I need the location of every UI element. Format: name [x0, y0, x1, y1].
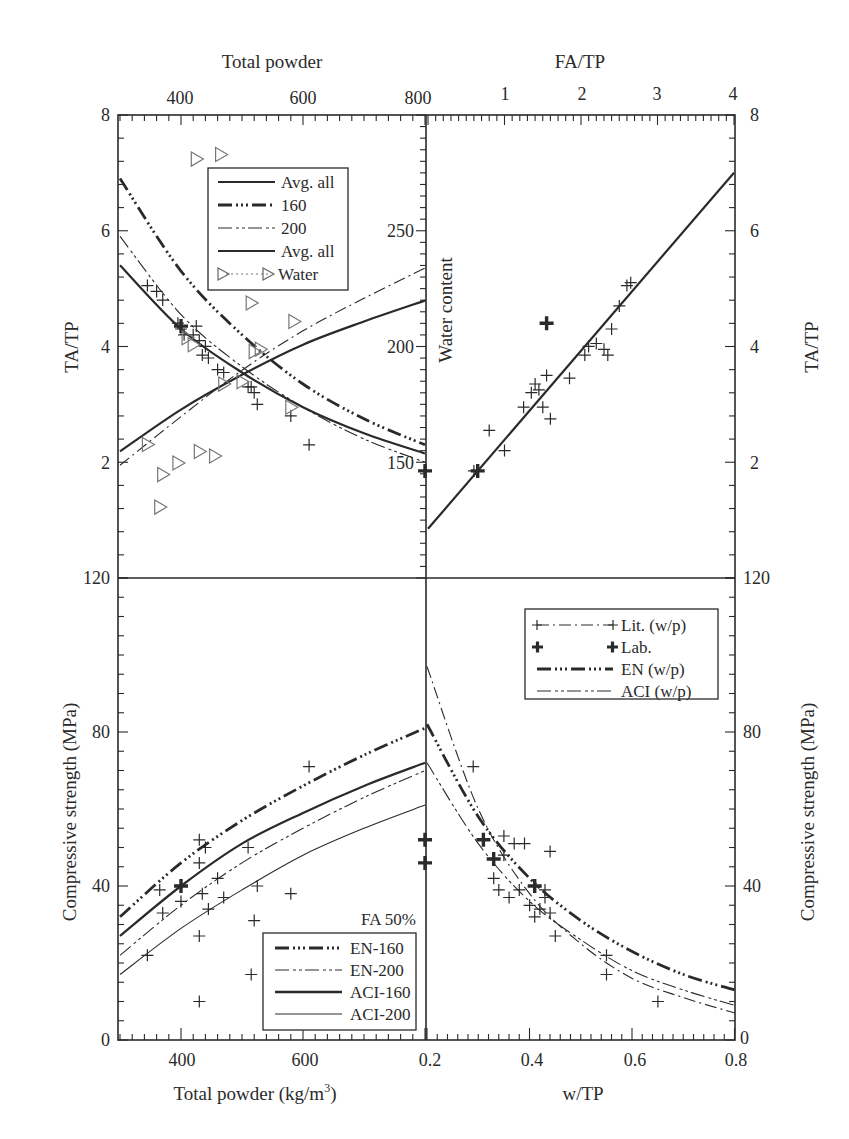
- fa-50-annotation: FA 50%: [361, 910, 416, 929]
- plus-marker: [524, 899, 536, 911]
- legend-label-avg-all-2: Avg. all: [281, 242, 335, 261]
- plus-marker: [175, 895, 187, 907]
- legend-label-aci-wp: ACI (w/p): [621, 682, 691, 701]
- top-right-x-axis-title: FA/TP: [555, 51, 605, 72]
- plus-marker: [151, 285, 163, 297]
- tick-rb-y-120: 120: [743, 568, 770, 588]
- triangle-marker: [216, 147, 228, 161]
- legend-label-water: Water: [278, 265, 318, 284]
- tick-tr-x-3: 3: [653, 84, 662, 104]
- plus-marker: [193, 834, 205, 846]
- left-bottom-y-axis-title: Compressive strength (MPa): [59, 703, 81, 921]
- plus-marker: [251, 398, 263, 410]
- plus-marker: [549, 930, 561, 942]
- plus-marker: [513, 884, 525, 896]
- tick-rt-y-6: 6: [750, 221, 759, 241]
- chart-svg: Total powder FA/TP 400 600 800 1 2 3 4 8…: [0, 0, 849, 1139]
- legend-label-lab: Lab.: [621, 638, 652, 657]
- legend-label-160: 160: [281, 196, 307, 215]
- legend-label-en-200: EN-200: [350, 961, 404, 980]
- plus-marker: [248, 915, 260, 927]
- tick-tl-x-400: 400: [167, 88, 194, 108]
- plus-marker: [508, 838, 520, 850]
- legend-label-en-160: EN-160: [350, 939, 404, 958]
- plus-marker: [193, 857, 205, 869]
- right-top-y-axis-title: TA/TP: [801, 321, 822, 372]
- bold-plus-marker: [174, 319, 188, 333]
- plus-marker: [196, 888, 208, 900]
- plus-marker: [190, 320, 202, 332]
- legend-label-aci-160: ACI-160: [350, 983, 410, 1002]
- plus-marker: [529, 911, 541, 923]
- plus-marker: [141, 949, 153, 961]
- tick-tr-x-1: 1: [501, 84, 510, 104]
- plus-marker: [199, 842, 211, 854]
- tick-inner-y-200: 200: [387, 337, 414, 357]
- triangle-marker: [246, 296, 258, 310]
- plus-marker: [212, 364, 224, 376]
- bold-plus-marker: [418, 464, 432, 478]
- triangle-marker: [158, 468, 170, 482]
- tick-rt-y-4: 4: [750, 337, 759, 357]
- plus-marker: [212, 872, 224, 884]
- triangle-marker: [210, 449, 222, 463]
- tick-br-x-0.8: 0.8: [725, 1050, 748, 1070]
- plus-marker: [157, 907, 169, 919]
- tick-br-x-0.4: 0.4: [521, 1050, 544, 1070]
- tick-bl-x-600: 600: [292, 1050, 319, 1070]
- bold-plus-marker: [418, 856, 432, 870]
- plus-marker: [493, 884, 505, 896]
- plus-marker: [193, 930, 205, 942]
- plus-marker: [285, 888, 297, 900]
- tick-rt-y-8: 8: [750, 105, 759, 125]
- bold-plus-marker: [487, 852, 501, 866]
- plus-marker: [499, 445, 511, 457]
- legend-label-avg-all: Avg. all: [281, 173, 335, 192]
- plus-marker: [541, 369, 553, 381]
- series-avg-all-water-content-: [120, 301, 425, 452]
- plus-marker: [544, 845, 556, 857]
- tick-tr-x-4: 4: [729, 84, 738, 104]
- triangle-marker: [191, 152, 203, 166]
- tick-lt-y-4: 4: [101, 337, 110, 357]
- plus-marker: [218, 892, 230, 904]
- water-content-axis-title: Water content: [435, 257, 456, 363]
- bottom-right-x-axis-title: w/TP: [562, 1083, 603, 1104]
- tick-lb-y-120: 120: [83, 568, 110, 588]
- tick-lb-y-40: 40: [92, 876, 110, 896]
- plus-marker: [606, 323, 618, 335]
- plus-marker: [303, 439, 315, 451]
- right-bottom-y-axis-title: Compressive strength (MPa): [797, 703, 819, 921]
- tick-rb-y-40: 40: [743, 876, 761, 896]
- tick-inner-y-150: 150: [387, 453, 414, 473]
- triangle-marker: [173, 456, 185, 470]
- series-water-fit-water-content-: [120, 268, 425, 465]
- left-top-y-axis-title: TA/TP: [61, 321, 82, 372]
- plus-marker: [498, 830, 510, 842]
- series-aci-w-p-: [427, 763, 735, 1006]
- tick-tr-x-2: 2: [578, 84, 587, 104]
- plus-marker: [483, 424, 495, 436]
- plus-marker: [245, 969, 257, 981]
- plus-marker: [218, 367, 230, 379]
- tick-rt-y-2: 2: [750, 453, 759, 473]
- legend-label-aci-200: ACI-200: [350, 1005, 410, 1024]
- plus-marker: [537, 401, 549, 413]
- bold-plus-marker: [528, 879, 542, 893]
- tick-rb-y-0: 0: [740, 1028, 749, 1048]
- legend-bottom-left: EN-160 EN-200 ACI-160 ACI-200: [263, 933, 416, 1030]
- tick-lt-y-6: 6: [101, 221, 110, 241]
- tick-br-x-0.6: 0.6: [624, 1050, 647, 1070]
- triangle-marker: [289, 315, 301, 329]
- legend-label-en-wp: EN (w/p): [621, 660, 685, 679]
- tick-br-x-0.2: 0.2: [419, 1050, 442, 1070]
- bold-plus-marker: [418, 833, 432, 847]
- legend-top-left: Avg. all 160 200 Avg. all Water: [208, 168, 348, 290]
- plus-marker: [601, 969, 613, 981]
- plus-marker: [467, 761, 479, 773]
- series-lit-w-p-: [427, 667, 735, 1014]
- bottom-left-x-axis-title: Total powder (kg/m3): [174, 1081, 337, 1105]
- bold-plus-marker: [540, 316, 554, 330]
- legend-bottom-right: Lit. (w/p) Lab. EN (w/p) ACI (w/p): [525, 609, 718, 701]
- tick-lt-y-2: 2: [101, 453, 110, 473]
